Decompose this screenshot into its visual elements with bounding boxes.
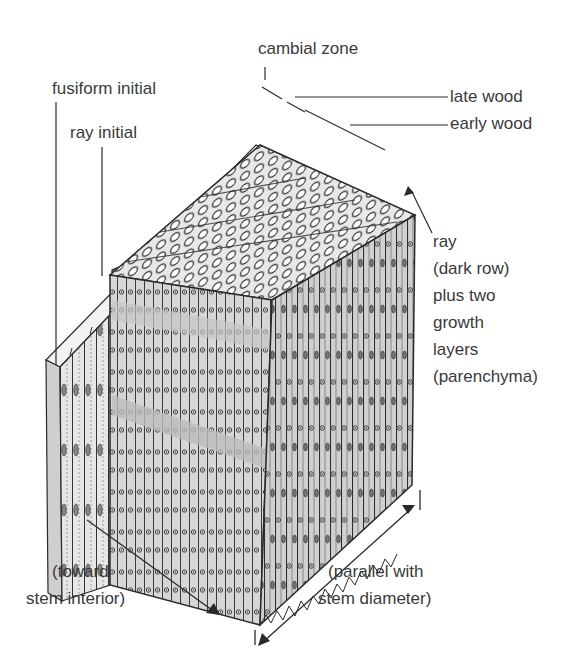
label-late-wood: late wood: [450, 86, 523, 108]
ray-note-line: (dark row): [433, 258, 510, 280]
ray-note-line: ray: [433, 231, 457, 253]
parallel-diameter-line: (parallel with: [328, 561, 423, 583]
ray-note-line: growth: [433, 312, 484, 334]
ray-note-line: plus two: [433, 285, 495, 307]
label-early-wood: early wood: [450, 113, 532, 135]
label-ray-initial: ray initial: [70, 122, 137, 144]
block-left-face: [110, 275, 272, 625]
ray-note-line: layers: [433, 339, 478, 361]
label-cambial-zone: cambial zone: [258, 38, 358, 60]
label-fusiform-initial: fusiform initial: [52, 78, 156, 100]
toward-interior-line: stem interior): [26, 588, 125, 610]
ray-arrowhead: [404, 186, 414, 196]
parallel-diameter-line: stem diameter): [318, 588, 431, 610]
toward-interior-line: (toward: [52, 561, 109, 583]
ray-note-line: (parenchyma): [433, 366, 538, 388]
arrowhead-diameter-low: [258, 633, 270, 646]
arrowhead-diameter-high: [402, 505, 415, 514]
